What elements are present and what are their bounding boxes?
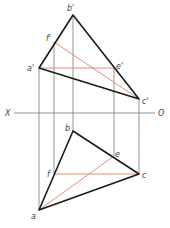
label-e-prime: e' (116, 62, 123, 71)
label-b-prime: b' (67, 4, 74, 13)
line-f-prime-c-prime (54, 42, 139, 99)
label-a: a (31, 212, 36, 221)
label-f: f (47, 170, 51, 179)
label-e: e (115, 150, 120, 159)
label-c-prime: c' (142, 97, 149, 106)
label-f-prime: f' (46, 34, 51, 43)
axis-label-x: X (4, 109, 11, 118)
projection-diagram: X O b' f' a' e' c' b e f c a (0, 0, 170, 228)
axis-label-o: O (158, 109, 164, 118)
label-b: b (65, 124, 70, 133)
label-a-prime: a' (27, 64, 34, 73)
label-c: c (142, 171, 147, 180)
